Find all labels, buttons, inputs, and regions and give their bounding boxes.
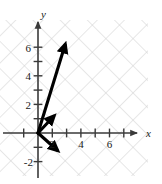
x-tick-label-2: 2: [50, 138, 56, 150]
y-tick-label-6: 6: [26, 42, 32, 54]
y-tick-label-negative-2: -2: [24, 156, 33, 168]
y-tick-label-4: 4: [26, 70, 32, 82]
y-axis-label: y: [40, 8, 46, 20]
coordinate-plane-svg: y x 2 4 6 6 4 2 -2: [0, 0, 162, 184]
x-tick-label-4: 4: [78, 138, 84, 150]
y-tick-label-2: 2: [26, 99, 32, 111]
x-tick-label-6: 6: [107, 138, 113, 150]
x-axis-label: x: [145, 127, 151, 139]
vector-diagram-figure: y x 2 4 6 6 4 2 -2: [0, 0, 162, 184]
